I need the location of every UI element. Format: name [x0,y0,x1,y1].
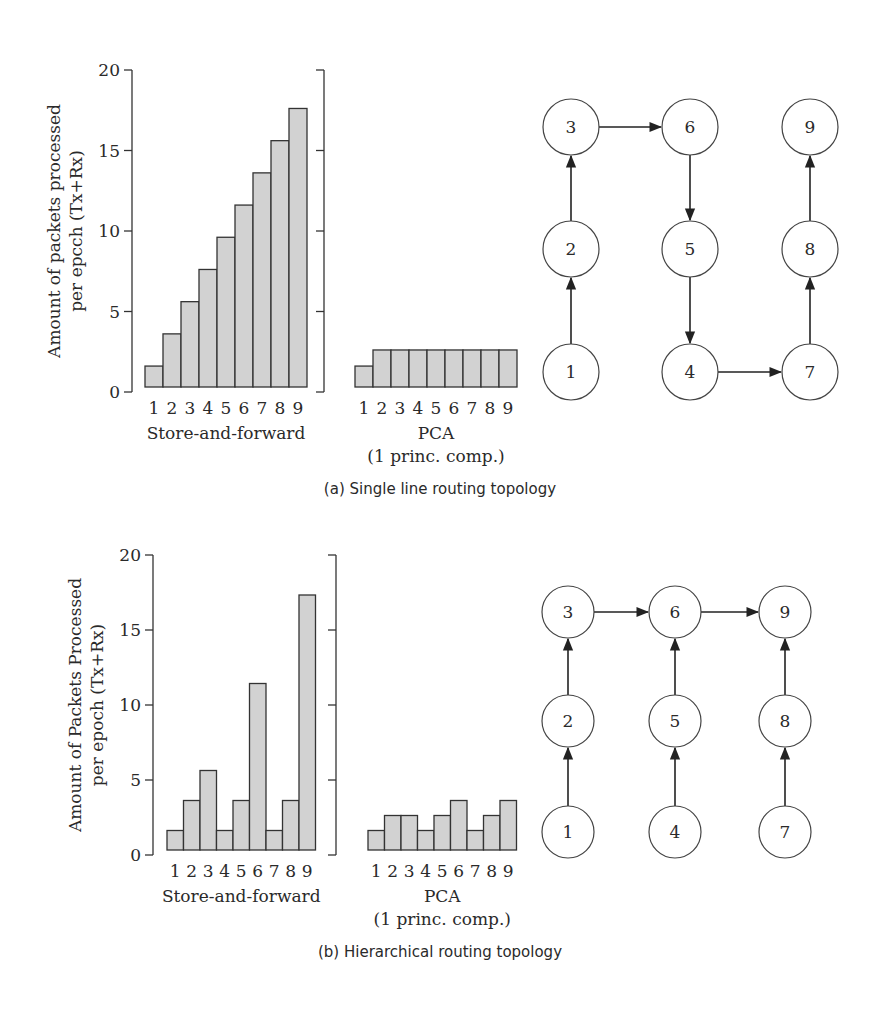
y-tick-label: 20 [98,60,120,80]
figure-caption: (a) Single line routing topology [324,480,556,498]
y-tick-label: 5 [109,302,120,322]
x-category-label: 7 [470,861,481,881]
x-category-label: 2 [377,398,388,418]
y-tick-label: 10 [98,221,120,241]
store-forward-bar [299,595,316,850]
y-axis-title-line1: Amount of Packets Processed [65,578,85,833]
store-forward-bar [199,269,217,387]
node-label: 1 [563,822,574,842]
pca-label: PCA [418,423,455,443]
node-label: 9 [805,117,816,137]
store-forward-bar [271,141,289,387]
y-axis-title-line2: per epoch (Tx+Rx) [87,624,107,786]
x-category-label: 6 [239,398,250,418]
pca-bar [368,831,385,851]
x-category-label: 5 [236,861,247,881]
pca-bar [484,816,501,851]
pca-bar [409,350,427,387]
x-category-label: 7 [269,861,280,881]
x-category-label: 4 [413,398,424,418]
store-forward-bar [289,108,307,387]
node-label: 3 [566,117,577,137]
store-forward-bar [283,801,300,851]
figure-canvas: 05101520Amount of packets processedper e… [0,0,872,1011]
x-category-label: 6 [449,398,460,418]
node-label: 2 [566,239,577,259]
x-category-label: 6 [252,861,263,881]
pca-bar [355,366,373,387]
node-label: 3 [563,602,574,622]
node-label: 8 [780,711,791,731]
node-label: 5 [685,239,696,259]
x-category-label: 4 [219,861,230,881]
pca-bar [391,350,409,387]
store-forward-bar [233,801,250,851]
x-category-label: 9 [503,398,514,418]
store-forward-bar [184,801,201,851]
pca-label: PCA [424,886,461,906]
store-forward-bar [235,205,253,387]
x-category-label: 6 [453,861,464,881]
store-forward-bar [266,831,283,851]
x-category-label: 8 [285,861,296,881]
x-category-label: 8 [485,398,496,418]
x-category-label: 1 [170,861,181,881]
pca-bar [481,350,499,387]
x-category-label: 5 [437,861,448,881]
node-label: 7 [780,822,791,842]
y-tick-label: 5 [130,770,141,790]
y-tick-label: 15 [119,620,141,640]
y-axis-title-line1: Amount of packets processed [44,104,64,359]
x-category-label: 9 [293,398,304,418]
x-category-label: 5 [431,398,442,418]
store-forward-bar [145,366,163,387]
x-category-label: 7 [467,398,478,418]
x-category-label: 9 [302,861,313,881]
node-label: 2 [563,711,574,731]
y-axis-title-line2: per epcch (Tx+Rx) [66,150,86,312]
x-category-label: 4 [203,398,214,418]
panel-b-hierarchical: 05101520Amount of Packets Processedper e… [65,545,811,961]
store-forward-bar [167,831,184,851]
x-category-label: 3 [203,861,214,881]
store-forward-bar [181,302,199,387]
store-forward-bar [200,771,217,851]
node-label: 6 [670,602,681,622]
x-category-label: 4 [420,861,431,881]
x-category-label: 9 [503,861,514,881]
x-category-label: 2 [167,398,178,418]
pca-sublabel: (1 princ. comp.) [367,446,504,466]
y-tick-label: 0 [130,845,141,865]
pca-bar [467,831,484,851]
store-forward-label: Store-and-forward [147,423,306,443]
store-forward-label: Store-and-forward [162,886,321,906]
y-tick-label: 20 [119,545,141,565]
x-category-label: 8 [486,861,497,881]
pca-bar [385,816,402,851]
node-label: 9 [780,602,791,622]
node-label: 7 [805,362,816,382]
figure-caption: (b) Hierarchical routing topology [318,943,562,961]
store-forward-bar [217,831,234,851]
store-forward-bar [250,684,267,851]
x-category-label: 3 [395,398,406,418]
node-label: 1 [566,362,577,382]
pca-bar [427,350,445,387]
pca-bar [451,801,468,851]
node-label: 8 [805,239,816,259]
pca-bar [418,831,435,851]
x-category-label: 7 [257,398,268,418]
x-category-label: 5 [221,398,232,418]
pca-bar [401,816,418,851]
x-category-label: 8 [275,398,286,418]
store-forward-bar [253,173,271,387]
pca-bar [463,350,481,387]
pca-bar [500,801,517,851]
x-category-label: 3 [185,398,196,418]
pca-bar [499,350,517,387]
y-tick-label: 0 [109,382,120,402]
pca-bar [445,350,463,387]
pca-bar [434,816,451,851]
store-forward-bar [163,334,181,387]
pca-bar [373,350,391,387]
